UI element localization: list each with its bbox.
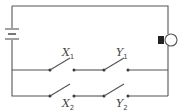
switch-y2 [103,84,130,98]
circuit-diagram: X1 Y1 X2 Y2 [0,0,183,112]
label-x1: X1 [61,46,74,61]
label-x2: X2 [61,97,74,112]
battery-icon [5,29,19,39]
switch-x2 [49,84,76,98]
top-wire [12,6,168,34]
label-y2: Y2 [116,97,128,112]
left-wire-lower [12,40,50,96]
bulb-icon [158,34,177,46]
label-y1: Y1 [116,46,128,61]
